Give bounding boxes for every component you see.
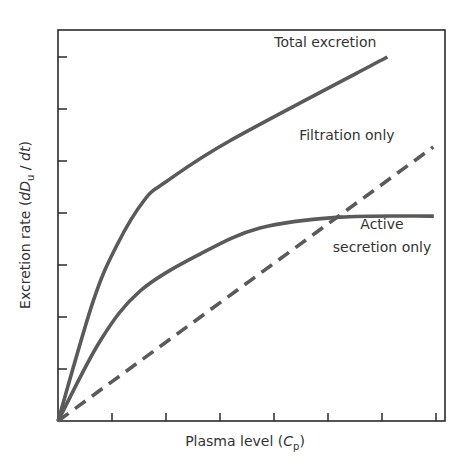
annotation-label: Active bbox=[360, 216, 403, 232]
x-axis-label: Plasma level (Cp) bbox=[185, 433, 305, 452]
chart: Total excretionFiltration onlyActivesecr… bbox=[0, 0, 468, 469]
annotation-label: secretion only bbox=[333, 239, 432, 255]
y-axis-label: Excretion rate (dDu / dt) bbox=[17, 141, 36, 309]
annotation-label: Total excretion bbox=[273, 34, 376, 50]
axis-labels: Plasma level (Cp) Excretion rate (dDu / … bbox=[17, 141, 305, 452]
series-filtration-only bbox=[58, 147, 433, 421]
annotation-label: Filtration only bbox=[299, 127, 395, 143]
